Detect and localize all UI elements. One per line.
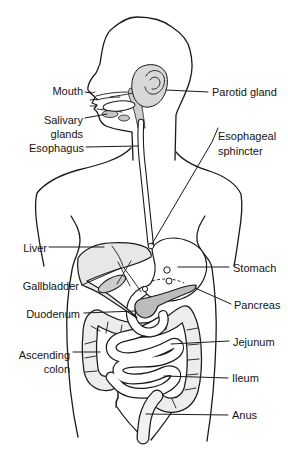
label-parotid-gland: Parotid gland <box>212 86 277 98</box>
esophagus-tube <box>141 122 151 245</box>
label-esophagus: Esophagus <box>29 142 85 154</box>
leader-anus <box>146 414 228 415</box>
label-stomach: Stomach <box>233 262 276 274</box>
leader-pancreas <box>195 288 231 304</box>
label-ileum: Ileum <box>232 372 259 384</box>
left-flank-outline <box>67 216 80 437</box>
label-esophageal-sphincter-line1: Esophageal <box>218 130 276 142</box>
label-pancreas: Pancreas <box>234 299 281 311</box>
cardiac-sphincter-dot <box>148 243 154 249</box>
label-duodenum: Duodenum <box>26 308 80 320</box>
label-salivary-glands-line2: glands <box>51 128 84 140</box>
digestive-system-diagram: Mouth Salivary glands Esophagus Parotid … <box>0 0 288 451</box>
mouth-roof-line <box>96 97 120 100</box>
palate-line <box>96 92 128 96</box>
label-mouth: Mouth <box>52 85 83 97</box>
label-jejunum: Jejunum <box>233 336 275 348</box>
label-liver: Liver <box>23 242 47 254</box>
label-ascending-colon-line2: colon <box>44 363 70 375</box>
rectum-tube <box>143 396 157 438</box>
label-ascending-colon-line1: Ascending <box>19 349 70 361</box>
tongue-shape <box>103 100 136 113</box>
label-anus: Anus <box>232 409 258 421</box>
submandibular-gland-shape <box>119 115 130 121</box>
label-gallbladder: Gallbladder <box>23 280 80 292</box>
pyloric-sphincter-dot <box>142 286 147 291</box>
parotid-gland-shape <box>132 65 168 108</box>
leader-esophageal-sphincter <box>152 128 218 244</box>
label-esophageal-sphincter-line2: sphincter <box>218 145 263 157</box>
head-interior <box>90 65 167 128</box>
lesser-curvature-node-1 <box>164 267 170 273</box>
lesser-curvature-node-2 <box>166 278 172 284</box>
label-salivary-glands-line1: Salivary <box>44 114 84 126</box>
leader-esophagus <box>86 146 138 147</box>
